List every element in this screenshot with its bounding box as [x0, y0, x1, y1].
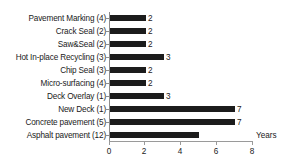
category-label: Concrete pavement (5)	[0, 116, 106, 129]
bar	[110, 41, 146, 47]
y-tick-mark	[105, 109, 109, 110]
bar	[110, 67, 146, 73]
table-row: Hot In-place Recycling (3) 3	[0, 51, 283, 64]
bar-rows: Pavement Marking (4) 2 Crack Seal (2) 2 …	[0, 12, 283, 142]
category-label: Chip Seal (3)	[0, 64, 106, 77]
bar-value-label: 7	[237, 103, 242, 116]
bar-value-label: 2	[148, 77, 153, 90]
x-axis-title: Years	[256, 130, 277, 141]
table-row: Saw&Seal (2) 2	[0, 38, 283, 51]
category-label: Crack Seal (2)	[0, 25, 106, 38]
bar	[110, 15, 146, 21]
bar-value-label: 5	[192, 129, 197, 142]
bar	[110, 80, 146, 86]
y-tick-mark	[105, 122, 109, 123]
bar-value-label: 2	[148, 25, 153, 38]
y-tick-mark	[105, 70, 109, 71]
bar-value-label: 2	[148, 64, 153, 77]
table-row: New Deck (1) 7	[0, 103, 283, 116]
y-tick-mark	[105, 44, 109, 45]
x-tick-label: 2	[134, 146, 154, 157]
x-tick-label: 4	[170, 146, 190, 157]
bar-value-label: 3	[166, 90, 171, 103]
x-tick-label: 0	[99, 146, 119, 157]
bar-chart: Pavement Marking (4) 2 Crack Seal (2) 2 …	[0, 0, 283, 163]
y-tick-mark	[105, 96, 109, 97]
y-tick-mark	[105, 31, 109, 32]
category-label: New Deck (1)	[0, 103, 106, 116]
bar-value-label: 7	[237, 116, 242, 129]
bar	[110, 132, 199, 138]
category-label: Saw&Seal (2)	[0, 38, 106, 51]
table-row: Concrete pavement (5) 7	[0, 116, 283, 129]
table-row: Pavement Marking (4) 2	[0, 12, 283, 25]
category-label: Micro-surfacing (4)	[0, 77, 106, 90]
table-row: Chip Seal (3) 2	[0, 64, 283, 77]
bar-value-label: 3	[166, 51, 171, 64]
bar-value-label: 2	[148, 12, 153, 25]
bar	[110, 119, 235, 125]
bar	[110, 54, 164, 60]
bar	[110, 93, 164, 99]
x-tick-label: 8	[242, 146, 262, 157]
category-label: Hot In-place Recycling (3)	[0, 51, 106, 64]
bar-value-label: 2	[148, 38, 153, 51]
category-label: Pavement Marking (4)	[0, 12, 106, 25]
category-label: Deck Overlay (1)	[0, 90, 106, 103]
y-tick-mark	[105, 18, 109, 19]
table-row: Deck Overlay (1) 3	[0, 90, 283, 103]
x-tick-label: 6	[206, 146, 226, 157]
table-row: Asphalt pavement (12) 5	[0, 129, 283, 142]
bar	[110, 28, 146, 34]
bar	[110, 106, 235, 112]
table-row: Micro-surfacing (4) 2	[0, 77, 283, 90]
table-row: Crack Seal (2) 2	[0, 25, 283, 38]
y-tick-mark	[105, 57, 109, 58]
y-tick-mark	[105, 83, 109, 84]
category-label: Asphalt pavement (12)	[0, 129, 106, 142]
y-tick-mark	[105, 135, 109, 136]
